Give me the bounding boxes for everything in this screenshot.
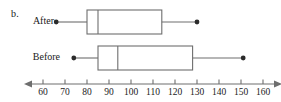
x-tick-label: 150 (234, 87, 248, 97)
x-tick-label: 160 (256, 87, 270, 97)
x-tick-label: 100 (124, 87, 138, 97)
min-point-after (54, 20, 59, 25)
x-axis-arrow-left-icon (24, 81, 32, 88)
x-tick-label: 70 (60, 87, 70, 97)
boxplot-before (71, 46, 245, 70)
boxplot-series-group (54, 10, 246, 70)
boxplot-after (54, 10, 200, 34)
max-point-before (241, 56, 246, 61)
x-tick-label: 60 (38, 87, 48, 97)
x-tick-label: 120 (168, 87, 182, 97)
x-tick-label: 110 (146, 87, 160, 97)
max-point-after (195, 20, 200, 25)
x-tick-label: 140 (212, 87, 226, 97)
x-tick-label: 90 (104, 87, 114, 97)
x-tick-label: 80 (82, 87, 92, 97)
boxplot-figure: b. After Before 607080901001101201301401… (0, 0, 281, 102)
box-before (98, 46, 193, 70)
x-axis-arrow-right-icon (274, 81, 281, 88)
x-tick-label: 130 (190, 87, 204, 97)
min-point-before (71, 56, 76, 61)
